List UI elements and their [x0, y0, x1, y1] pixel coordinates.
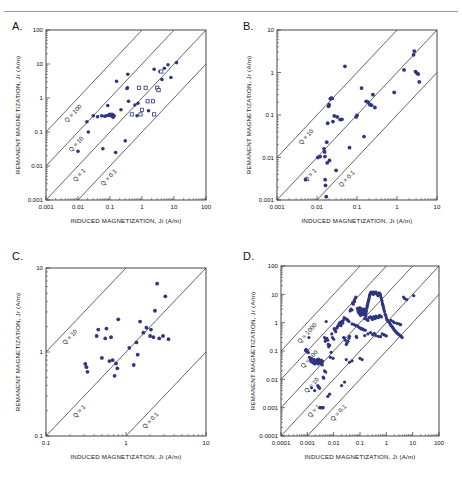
svg-text:0.1: 0.1 — [35, 432, 44, 439]
svg-text:0.0001: 0.0001 — [259, 432, 278, 439]
svg-text:INDUCED MAGNETIZATION, Ji (: INDUCED MAGNETIZATION, Ji (A/m) — [304, 453, 415, 460]
svg-text:1: 1 — [124, 439, 128, 446]
svg-text:10: 10 — [434, 203, 441, 210]
svg-text:Q = 10: Q = 10 — [297, 127, 315, 146]
svg-text:1: 1 — [395, 203, 399, 210]
svg-text:0.1: 0.1 — [35, 128, 44, 135]
svg-text:0.0001: 0.0001 — [272, 439, 291, 446]
svg-text:Q = 0.1: Q = 0.1 — [99, 167, 118, 187]
svg-text:0.01: 0.01 — [311, 203, 323, 210]
svg-text:INDUCED MAGNETIZATION, Ji (: INDUCED MAGNETIZATION, Ji (A/m) — [70, 217, 181, 224]
figure-root: A. Q = 100Q = 10Q = 1Q = 0.10.0010.010.1… — [0, 0, 462, 487]
panel-c: C. Q = 10Q = 1Q = 0.10.11100.1110INDUCED… — [0, 250, 231, 485]
svg-text:0.1: 0.1 — [270, 347, 279, 354]
svg-text:1: 1 — [140, 203, 144, 210]
panel-b-plot: Q = 10Q = 1Q = 0.10.0010.010.11100.0010.… — [231, 16, 462, 244]
top-divider-rule — [4, 11, 458, 12]
svg-text:10: 10 — [36, 264, 43, 271]
svg-text:1: 1 — [271, 69, 275, 76]
svg-text:Q = 0.1: Q = 0.1 — [329, 402, 348, 422]
svg-text:10: 10 — [271, 291, 278, 298]
svg-text:Q = 0.1: Q = 0.1 — [141, 410, 160, 430]
panel-d-letter: D. — [243, 250, 254, 262]
svg-text:REMANENT MAGNETIZATION, Jr: REMANENT MAGNETIZATION, Jr (A/m) — [249, 292, 256, 410]
svg-text:1: 1 — [275, 319, 279, 326]
svg-text:10: 10 — [171, 203, 178, 210]
svg-text:1: 1 — [385, 439, 389, 446]
svg-text:0.1: 0.1 — [356, 439, 365, 446]
panel-b-letter: B. — [243, 20, 254, 32]
panel-b: B. Q = 10Q = 1Q = 0.10.0010.010.11100.00… — [231, 16, 462, 244]
svg-text:1: 1 — [40, 348, 44, 355]
svg-text:Q = 1000: Q = 1000 — [296, 321, 319, 345]
svg-text:0.1: 0.1 — [266, 111, 275, 118]
svg-text:0.1: 0.1 — [106, 203, 115, 210]
svg-text:100: 100 — [268, 262, 279, 269]
svg-text:Q = 1: Q = 1 — [306, 402, 322, 418]
svg-text:Q = 1: Q = 1 — [71, 166, 87, 182]
panel-c-letter: C. — [12, 250, 23, 262]
svg-text:100: 100 — [33, 26, 44, 33]
svg-text:1: 1 — [40, 94, 44, 101]
svg-text:10: 10 — [409, 439, 416, 446]
svg-text:0.001: 0.001 — [300, 439, 316, 446]
panel-a-letter: A. — [12, 20, 23, 32]
svg-text:0.001: 0.001 — [38, 203, 54, 210]
svg-text:Q = 10: Q = 10 — [67, 134, 85, 153]
svg-text:REMANENT MAGNETIZATION, Jr: REMANENT MAGNETIZATION, Jr (A/m) — [14, 56, 21, 174]
svg-text:REMANENT MAGNETIZATION, Jr: REMANENT MAGNETIZATION, Jr (A/m) — [14, 293, 21, 411]
svg-text:0.1: 0.1 — [353, 203, 362, 210]
svg-text:100: 100 — [201, 203, 212, 210]
svg-text:10: 10 — [36, 60, 43, 67]
svg-text:0.01: 0.01 — [31, 162, 43, 169]
panel-c-plot: Q = 10Q = 1Q = 0.10.11100.1110INDUCED MA… — [0, 250, 231, 485]
svg-text:0.001: 0.001 — [259, 196, 275, 203]
svg-text:INDUCED MAGNETIZATION, Ji (: INDUCED MAGNETIZATION, Ji (A/m) — [70, 453, 181, 460]
svg-text:0.01: 0.01 — [328, 439, 340, 446]
svg-text:Q = 100: Q = 100 — [63, 102, 83, 123]
svg-text:0.01: 0.01 — [262, 154, 274, 161]
svg-text:0.001: 0.001 — [28, 196, 44, 203]
svg-text:INDUCED MAGNETIZATION, Ji (: INDUCED MAGNETIZATION, Ji (A/m) — [301, 217, 412, 224]
panel-a-plot: Q = 100Q = 10Q = 1Q = 0.10.0010.010.1110… — [0, 16, 231, 244]
svg-text:100: 100 — [434, 439, 445, 446]
svg-text:10: 10 — [267, 26, 274, 33]
svg-text:0.01: 0.01 — [72, 203, 84, 210]
svg-text:0.001: 0.001 — [269, 203, 285, 210]
svg-text:Q = 0.1: Q = 0.1 — [337, 168, 356, 188]
svg-text:0.01: 0.01 — [266, 376, 278, 383]
svg-text:Q = 1: Q = 1 — [71, 403, 87, 419]
panel-d-plot: Q = 1000Q = 100Q = 10Q = 1Q = 0.10.00010… — [231, 250, 462, 485]
svg-text:0.001: 0.001 — [263, 404, 279, 411]
svg-text:10: 10 — [203, 439, 210, 446]
panel-d: D. Q = 1000Q = 100Q = 10Q = 1Q = 0.10.00… — [231, 250, 462, 485]
panel-a: A. Q = 100Q = 10Q = 1Q = 0.10.0010.010.1… — [0, 16, 231, 244]
svg-text:REMANENT MAGNETIZATION, Jr: REMANENT MAGNETIZATION, Jr (A/m) — [245, 56, 252, 174]
svg-text:0.1: 0.1 — [42, 439, 51, 446]
svg-text:Q = 10: Q = 10 — [61, 327, 79, 346]
